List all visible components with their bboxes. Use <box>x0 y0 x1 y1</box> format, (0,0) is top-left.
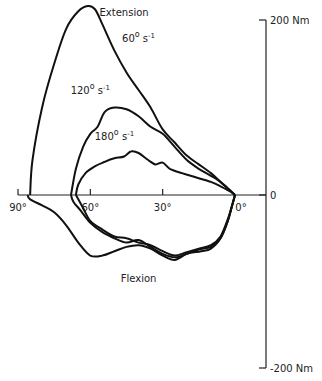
annotation-flexion: Flexion <box>121 273 157 284</box>
x-tick-label: 30° <box>154 202 172 213</box>
y-tick-label: 200 Nm <box>270 15 310 26</box>
curve-flexion-601 <box>28 195 235 260</box>
x-tick-label: 0° <box>235 202 246 213</box>
x-tick-label: 90° <box>9 202 27 213</box>
y-tick-label: -200 Nm <box>270 363 313 374</box>
torque-angle-chart: 90°60°30°0° 200 Nm0-200 Nm ExtensionFlex… <box>0 0 322 381</box>
annotation-extension: Extension <box>100 7 149 18</box>
speed-label-180: 180o s-1 <box>95 128 134 142</box>
y-tick-label: 0 <box>270 190 276 201</box>
speed-label-60: 60o s-1 <box>122 30 155 44</box>
speed-label-120: 120o s-1 <box>71 82 110 96</box>
